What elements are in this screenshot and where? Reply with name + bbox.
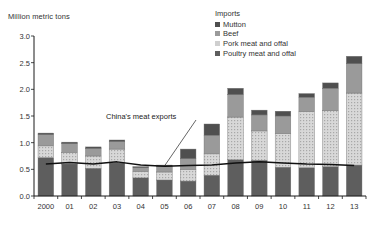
- bar-segment: [299, 168, 315, 196]
- axis-lines: [34, 36, 366, 196]
- bar-segment: [157, 172, 173, 180]
- x-tick-label: 07: [208, 202, 216, 211]
- bar-group: [346, 56, 362, 196]
- y-tick-label: 1.0: [8, 139, 30, 148]
- bar-segment: [228, 160, 244, 196]
- chart-canvas: Million metric tons Imports Mutton Beef …: [0, 0, 372, 230]
- x-tick-label: 04: [137, 202, 145, 211]
- bar-segment: [157, 167, 173, 172]
- y-tick-label: 1.5: [8, 112, 30, 121]
- x-tick-label: 11: [303, 202, 311, 211]
- bar-segment: [38, 133, 54, 135]
- bar-segment: [180, 149, 196, 159]
- y-tick-label: 0.5: [8, 165, 30, 174]
- bar-segment: [157, 180, 173, 196]
- bar-segment: [275, 111, 291, 116]
- x-tick-label: 02: [89, 202, 97, 211]
- bar-segment: [133, 167, 149, 168]
- bar-segment: [228, 88, 244, 94]
- bar-group: [323, 83, 339, 196]
- bar-segment: [180, 169, 196, 181]
- y-tick-label: 2.5: [8, 59, 30, 68]
- bar-segment: [323, 83, 339, 88]
- bar-group: [133, 167, 149, 196]
- bar-group: [62, 142, 78, 196]
- x-tick-label: 08: [231, 202, 239, 211]
- bar-segment: [323, 111, 339, 167]
- y-tick-label: 0.0: [8, 192, 30, 201]
- bar-segment: [62, 164, 78, 196]
- x-tick-label: 05: [160, 202, 168, 211]
- bar-segment: [346, 93, 362, 165]
- y-tick-label: 3.0: [8, 32, 30, 41]
- bar-segment: [275, 116, 291, 134]
- x-tick-label: 06: [184, 202, 192, 211]
- bar-segment: [85, 168, 101, 196]
- bar-segment: [299, 112, 315, 168]
- bar-segment: [251, 115, 267, 131]
- bar-segment: [38, 146, 54, 158]
- bar-segment: [133, 171, 149, 177]
- bar-group: [157, 165, 173, 196]
- x-tick-label: 03: [113, 202, 121, 211]
- bar-segment: [180, 159, 196, 170]
- bar-segment: [133, 168, 149, 172]
- bar-group: [109, 140, 125, 196]
- y-tick-label: 2.0: [8, 85, 30, 94]
- bar-segment: [62, 144, 78, 153]
- x-tick-label: 13: [350, 202, 358, 211]
- bar-segment: [204, 175, 220, 196]
- bar-segment: [299, 94, 315, 98]
- plot-area: [0, 0, 372, 230]
- bar-segment: [109, 149, 125, 163]
- bar-segment: [204, 124, 220, 135]
- bar-segment: [109, 163, 125, 196]
- bar-segment: [38, 135, 54, 146]
- bar-group: [180, 149, 196, 196]
- bar-group: [204, 124, 220, 196]
- bar-segment: [109, 142, 125, 149]
- bar-segment: [346, 56, 362, 63]
- bar-segment: [323, 88, 339, 110]
- x-tick-label: 01: [65, 202, 73, 211]
- x-tick-label: 10: [279, 202, 287, 211]
- bar-segment: [299, 97, 315, 111]
- bar-segment: [85, 149, 101, 156]
- x-tick-label: 2000: [38, 202, 55, 211]
- bar-group: [38, 133, 54, 196]
- x-tick-label: 12: [326, 202, 334, 211]
- bar-segment: [109, 140, 125, 142]
- bar-segment: [228, 95, 244, 117]
- bar-segment: [85, 147, 101, 149]
- bar-segment: [85, 156, 101, 168]
- bar-segment: [346, 165, 362, 196]
- bar-segment: [62, 142, 78, 144]
- bar-group: [299, 94, 315, 196]
- bar-segment: [275, 167, 291, 196]
- bar-segment: [180, 181, 196, 196]
- x-tick-label: 09: [255, 202, 263, 211]
- bar-segment: [204, 135, 220, 154]
- bar-segment: [346, 64, 362, 93]
- bar-segment: [251, 110, 267, 115]
- bar-group: [228, 88, 244, 196]
- bar-segment: [323, 167, 339, 196]
- bar-group: [85, 147, 101, 196]
- bar-segment: [228, 117, 244, 160]
- bar-group: [275, 111, 291, 196]
- bar-segment: [133, 178, 149, 196]
- bar-segment: [251, 131, 267, 160]
- bar-segment: [251, 160, 267, 196]
- bar-group: [251, 110, 267, 196]
